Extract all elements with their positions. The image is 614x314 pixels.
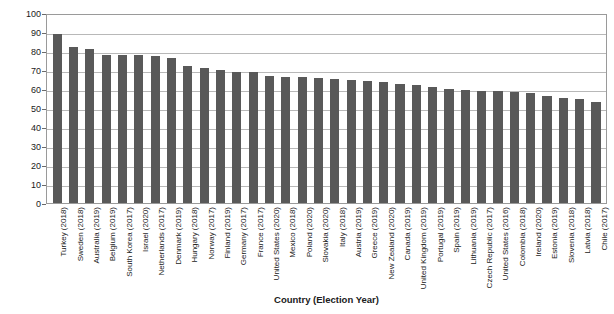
x-label-slot: Latvia (2018): [572, 205, 588, 290]
bar-chart: Voter Turnout (% of Voting Age Populatio…: [0, 0, 614, 314]
bar-slot: [523, 15, 539, 203]
y-tick-label: 50: [31, 104, 41, 114]
x-label-slot: Slovenia (2018): [556, 205, 572, 290]
x-label-slot: Portugal (2019): [425, 205, 441, 290]
bar: [363, 81, 372, 203]
bar: [575, 99, 584, 203]
bar: [85, 49, 94, 203]
x-label-slot: Lithuania (2019): [457, 205, 473, 290]
bar: [428, 87, 437, 203]
bar: [118, 55, 127, 203]
x-label-slot: Netherlands (2017): [146, 205, 162, 290]
x-label-slot: Ireland (2020): [523, 205, 539, 290]
x-label-slot: Estonia (2019): [539, 205, 555, 290]
bar-slot: [588, 15, 604, 203]
bar-series: [47, 15, 606, 203]
x-label-slot: Austria (2019): [343, 205, 359, 290]
x-label-slot: France (2017): [245, 205, 261, 290]
bar-slot: [327, 15, 343, 203]
x-axis-tick-labels: Turkey (2018)Sweden (2018)Australia (201…: [46, 205, 607, 290]
y-tick-label: 70: [31, 66, 41, 76]
bar-slot: [180, 15, 196, 203]
x-axis-title: Country (Election Year): [46, 294, 607, 305]
bar: [412, 85, 421, 203]
x-label-slot: Mexico (2018): [277, 205, 293, 290]
x-label-slot: Canada (2019): [392, 205, 408, 290]
bar: [347, 80, 356, 203]
x-label-slot: South Korea (2017): [114, 205, 130, 290]
bar-slot: [163, 15, 179, 203]
y-axis-tick-labels: 0102030405060708090100: [0, 0, 46, 205]
bar-slot: [114, 15, 130, 203]
x-label-slot: Turkey (2018): [48, 205, 64, 290]
bar-slot: [82, 15, 98, 203]
bar-slot: [425, 15, 441, 203]
bar: [379, 82, 388, 203]
bar: [102, 55, 111, 203]
bar-slot: [147, 15, 163, 203]
x-label-slot: Israel (2020): [130, 205, 146, 290]
plot-area: [46, 14, 607, 204]
bar: [134, 55, 143, 203]
x-label-slot: United States (2020): [261, 205, 277, 290]
y-tick-label: 10: [31, 180, 41, 190]
bar-slot: [555, 15, 571, 203]
x-tick-label: Chile (2017): [600, 207, 609, 251]
x-label-slot: Slovakia (2020): [310, 205, 326, 290]
x-label-slot: Finland (2019): [212, 205, 228, 290]
bar: [232, 72, 241, 203]
x-label-slot: New Zealand (2020): [376, 205, 392, 290]
x-label-slot: Italy (2018): [326, 205, 342, 290]
bar: [314, 78, 323, 203]
y-tick-label: 80: [31, 47, 41, 57]
bar: [298, 77, 307, 203]
bar-slot: [506, 15, 522, 203]
bar: [53, 34, 62, 203]
bar-slot: [474, 15, 490, 203]
bar-slot: [457, 15, 473, 203]
bar: [461, 90, 470, 203]
bar-slot: [490, 15, 506, 203]
bar-slot: [196, 15, 212, 203]
bar-slot: [392, 15, 408, 203]
bar-slot: [278, 15, 294, 203]
bar-slot: [310, 15, 326, 203]
bar: [330, 79, 339, 203]
x-label-slot: Colombia (2018): [507, 205, 523, 290]
bar: [216, 70, 225, 203]
bar: [559, 98, 568, 203]
bar-slot: [441, 15, 457, 203]
bar: [183, 66, 192, 203]
bar: [151, 56, 160, 203]
y-tick-label: 60: [31, 85, 41, 95]
bar: [526, 93, 535, 203]
x-label-slot: Czech Republic (2017): [474, 205, 490, 290]
bar-slot: [572, 15, 588, 203]
bar: [265, 76, 274, 203]
bar: [69, 47, 78, 203]
y-tick-label: 20: [31, 161, 41, 171]
bar: [591, 102, 600, 203]
x-label-slot: Greece (2019): [359, 205, 375, 290]
bar-slot: [49, 15, 65, 203]
bar-slot: [261, 15, 277, 203]
bar: [167, 58, 176, 203]
x-label-slot: Denmark (2019): [163, 205, 179, 290]
bar: [395, 84, 404, 203]
bar: [281, 77, 290, 203]
bar-slot: [65, 15, 81, 203]
bar-slot: [408, 15, 424, 203]
x-label-slot: Sweden (2018): [64, 205, 80, 290]
y-tick-label: 100: [26, 9, 41, 19]
x-label-slot: Spain (2019): [441, 205, 457, 290]
x-label-slot: Poland (2020): [294, 205, 310, 290]
bar-slot: [212, 15, 228, 203]
bar: [444, 89, 453, 203]
bar-slot: [98, 15, 114, 203]
y-tick-label: 30: [31, 142, 41, 152]
bar-slot: [131, 15, 147, 203]
y-tick-label: 0: [36, 199, 41, 209]
x-label-slot: Chile (2017): [588, 205, 604, 290]
bar: [493, 91, 502, 203]
bar-slot: [343, 15, 359, 203]
